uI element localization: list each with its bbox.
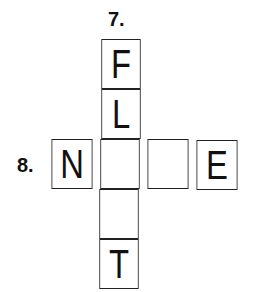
cell-across-3[interactable] xyxy=(148,139,189,189)
cell-down-2[interactable]: L xyxy=(101,89,140,139)
cell-down-5[interactable]: T xyxy=(99,239,138,289)
cell-letter: N xyxy=(60,144,84,184)
cell-letter: L xyxy=(112,94,130,134)
clue-number-7: 7. xyxy=(108,9,125,29)
cell-intersection[interactable] xyxy=(100,139,139,189)
cell-letter: E xyxy=(206,145,228,185)
cell-down-1[interactable]: F xyxy=(101,39,140,89)
cell-down-4[interactable] xyxy=(99,189,138,239)
cell-across-1[interactable]: N xyxy=(52,139,93,189)
cell-across-4[interactable]: E xyxy=(197,140,238,190)
cell-letter: F xyxy=(111,44,131,84)
cell-letter: T xyxy=(109,244,129,284)
clue-number-8: 8. xyxy=(17,155,34,175)
